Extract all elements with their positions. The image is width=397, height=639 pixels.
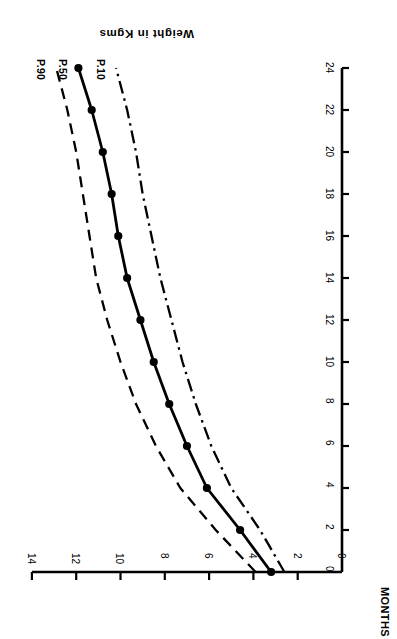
y-axis-tick-label: 0 bbox=[336, 553, 347, 559]
y-axis-tick-label: 8 bbox=[159, 553, 170, 559]
y-axis-tick-label: 4 bbox=[247, 553, 258, 559]
y-axis-tick-label: 12 bbox=[70, 553, 81, 564]
data-point-marker bbox=[165, 400, 173, 408]
x-axis-tick-label: 12 bbox=[324, 314, 335, 325]
data-point-marker bbox=[267, 568, 275, 576]
chart-plot-area bbox=[0, 0, 397, 639]
data-point-marker bbox=[114, 232, 122, 240]
growth-chart: MONTHS Weight in Kgms 024681012141618202… bbox=[0, 0, 397, 639]
data-point-marker bbox=[74, 64, 82, 72]
x-axis-tick-label: 6 bbox=[324, 440, 335, 446]
y-axis-tick-label: 14 bbox=[26, 553, 37, 564]
x-axis-tick-label: 16 bbox=[324, 230, 335, 241]
data-point-marker bbox=[99, 148, 107, 156]
data-point-marker bbox=[136, 316, 144, 324]
y-axis-title: Weight in Kgms bbox=[99, 28, 194, 40]
x-axis-tick-label: 10 bbox=[324, 356, 335, 367]
x-axis-tick-label: 8 bbox=[324, 398, 335, 404]
curve-label-p90: P.90 bbox=[35, 59, 47, 80]
data-point-marker bbox=[203, 484, 211, 492]
curve-label-p50: P.50 bbox=[57, 59, 69, 80]
data-point-marker bbox=[150, 358, 158, 366]
data-point-marker bbox=[183, 442, 191, 450]
x-axis-tick-label: 0 bbox=[324, 566, 335, 572]
x-axis-title: MONTHS bbox=[379, 587, 391, 637]
x-axis-tick-label: 2 bbox=[324, 524, 335, 530]
data-point-marker bbox=[123, 274, 131, 282]
rotated-figure-container: MONTHS Weight in Kgms 024681012141618202… bbox=[0, 0, 397, 639]
x-axis-tick-label: 14 bbox=[324, 272, 335, 283]
x-axis-tick-label: 20 bbox=[324, 146, 335, 157]
y-axis-tick-label: 6 bbox=[203, 553, 214, 559]
y-axis-tick-label: 2 bbox=[292, 553, 303, 559]
x-axis-tick-label: 22 bbox=[324, 104, 335, 115]
x-axis-tick-label: 18 bbox=[324, 188, 335, 199]
data-point-marker bbox=[108, 190, 116, 198]
curve-p90 bbox=[56, 68, 255, 572]
x-axis-tick-label: 24 bbox=[324, 62, 335, 73]
curve-label-p10: P.10 bbox=[95, 59, 107, 80]
y-axis-tick-label: 10 bbox=[115, 553, 126, 564]
x-axis-tick-label: 4 bbox=[324, 482, 335, 488]
data-point-marker bbox=[236, 526, 244, 534]
data-point-marker bbox=[88, 106, 96, 114]
